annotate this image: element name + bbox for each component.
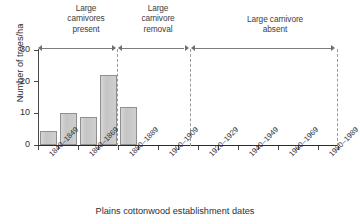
x-tick-4 xyxy=(118,146,119,150)
arrow-line-1 xyxy=(42,48,113,49)
x-tick-10 xyxy=(238,146,239,150)
x-tick-8 xyxy=(198,146,199,150)
annotation-large-carnivores-present: Large carnivores present xyxy=(52,3,120,34)
bar-1880-1889 xyxy=(120,107,137,145)
bar-1840-1849 xyxy=(40,131,57,145)
x-tick-14 xyxy=(318,146,319,150)
y-tick-label-0: 0 xyxy=(12,139,30,149)
bar-1860-1869 xyxy=(80,117,97,146)
x-tick-12 xyxy=(278,146,279,150)
period-divider-3 xyxy=(337,49,338,146)
y-tick-label-20: 20 xyxy=(12,76,30,86)
annotation-large-carnivore-absent: Large carnivore absent xyxy=(210,14,340,35)
y-tick-label-10: 10 xyxy=(12,107,30,117)
x-axis-title: Plains cottonwood establishment dates xyxy=(0,206,350,216)
arrow-line-2 xyxy=(122,48,184,49)
arrow-line-3 xyxy=(195,48,332,49)
x-tick-6 xyxy=(158,146,159,150)
y-tick-label-30: 30 xyxy=(12,44,30,54)
x-tick-0 xyxy=(38,146,39,150)
y-axis-title: Number of trees/ha xyxy=(15,3,25,123)
x-tick-2 xyxy=(78,146,79,150)
annotation-large-carnivore-removal: Large carnivore removal xyxy=(126,3,190,34)
